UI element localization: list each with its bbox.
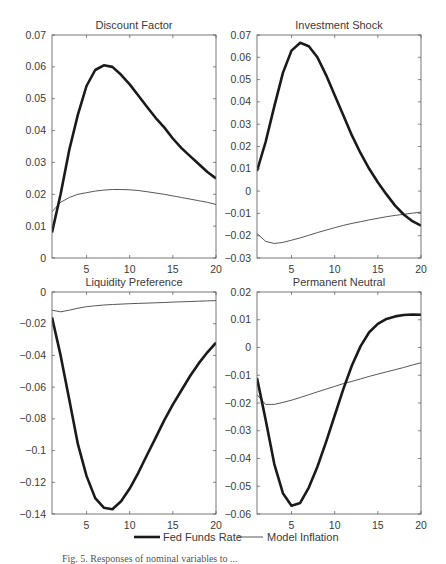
y-tick-label: −0.12 bbox=[19, 476, 46, 488]
y-tick-label: −0.03 bbox=[224, 252, 251, 264]
series-fed-funds-rate bbox=[257, 43, 421, 226]
y-tick-label: 0.02 bbox=[231, 286, 252, 298]
y-tick-label: 0.05 bbox=[231, 73, 252, 85]
y-tick-label: −0.06 bbox=[224, 508, 251, 520]
y-tick-label: 0.01 bbox=[231, 162, 252, 174]
y-tick-label: 0 bbox=[40, 252, 46, 264]
y-tick-label: −0.02 bbox=[224, 397, 251, 409]
panel-title: Investment Shock bbox=[295, 19, 383, 31]
y-tick-label: −0.08 bbox=[19, 412, 46, 424]
panel-title: Liquidity Preference bbox=[85, 276, 182, 288]
y-tick-label: 0.07 bbox=[26, 29, 47, 41]
y-tick-label: 0.07 bbox=[231, 29, 252, 41]
panel-title: Discount Factor bbox=[95, 19, 172, 31]
y-tick-label: 0 bbox=[40, 286, 46, 298]
y-tick-label: 0.05 bbox=[26, 92, 47, 104]
panel-title: Permanent Neutral bbox=[293, 276, 385, 288]
x-tick-label: 5 bbox=[289, 263, 295, 275]
x-tick-label: 15 bbox=[167, 519, 179, 531]
y-tick-label: 0 bbox=[245, 341, 251, 353]
y-tick-label: −0.02 bbox=[224, 229, 251, 241]
y-tick-label: −0.01 bbox=[224, 369, 251, 381]
y-tick-label: 0.04 bbox=[26, 124, 47, 136]
series-model-inflation bbox=[52, 301, 216, 312]
legend-label-model-inflation: Model Inflation bbox=[267, 531, 339, 543]
plot-frame bbox=[257, 35, 421, 258]
y-tick-label: 0.03 bbox=[26, 156, 47, 168]
x-tick-label: 15 bbox=[372, 263, 384, 275]
x-tick-label: 10 bbox=[329, 519, 341, 531]
y-tick-label: 0.06 bbox=[26, 60, 47, 72]
x-tick-label: 20 bbox=[210, 519, 222, 531]
x-tick-label: 5 bbox=[84, 263, 90, 275]
y-tick-label: 0.06 bbox=[231, 51, 252, 63]
y-tick-label: 0.02 bbox=[231, 140, 252, 152]
y-tick-label: −0.04 bbox=[19, 349, 46, 361]
y-tick-label: 0.03 bbox=[231, 118, 252, 130]
panel-discount-factor: Discount Factor00.010.020.030.040.050.06… bbox=[26, 19, 222, 275]
y-tick-label: 0 bbox=[245, 185, 251, 197]
x-tick-label: 20 bbox=[210, 263, 222, 275]
y-tick-label: 0.01 bbox=[26, 220, 47, 232]
y-tick-label: −0.06 bbox=[19, 381, 46, 393]
x-tick-label: 20 bbox=[415, 263, 427, 275]
legend-label-fed-funds-rate: Fed Funds Rate bbox=[163, 531, 242, 543]
panel-liquidity-preference: Liquidity Preference−0.14−0.12−0.1−0.08−… bbox=[19, 276, 222, 531]
x-tick-label: 10 bbox=[329, 263, 341, 275]
y-tick-label: −0.1 bbox=[25, 444, 46, 456]
series-fed-funds-rate bbox=[52, 65, 216, 232]
y-tick-label: −0.01 bbox=[224, 207, 251, 219]
x-tick-label: 10 bbox=[124, 263, 136, 275]
x-tick-label: 5 bbox=[289, 519, 295, 531]
y-tick-label: −0.02 bbox=[19, 317, 46, 329]
panel-permanent-neutral: Permanent Neutral−0.06−0.05−0.04−0.03−0.… bbox=[224, 276, 427, 531]
y-tick-label: −0.05 bbox=[224, 480, 251, 492]
y-tick-label: −0.14 bbox=[19, 508, 46, 520]
figure-caption: Fig. 5. Responses of nominal variables t… bbox=[62, 553, 238, 564]
panel-investment-shock: Investment Shock−0.03−0.02−0.0100.010.02… bbox=[224, 19, 427, 275]
x-tick-label: 15 bbox=[372, 519, 384, 531]
y-tick-label: 0.04 bbox=[231, 95, 252, 107]
legend: Fed Funds Rate Model Inflation bbox=[134, 531, 339, 543]
x-tick-label: 20 bbox=[415, 519, 427, 531]
x-tick-label: 15 bbox=[167, 263, 179, 275]
y-tick-label: −0.04 bbox=[224, 452, 251, 464]
series-model-inflation bbox=[257, 212, 421, 243]
y-tick-label: 0.01 bbox=[231, 313, 252, 325]
y-tick-label: 0.02 bbox=[26, 188, 47, 200]
plot-frame bbox=[52, 35, 216, 258]
x-tick-label: 5 bbox=[84, 519, 90, 531]
series-fed-funds-rate bbox=[257, 315, 421, 506]
x-tick-label: 10 bbox=[124, 519, 136, 531]
series-fed-funds-rate bbox=[52, 317, 216, 509]
y-tick-label: −0.03 bbox=[224, 424, 251, 436]
series-model-inflation bbox=[52, 190, 216, 212]
